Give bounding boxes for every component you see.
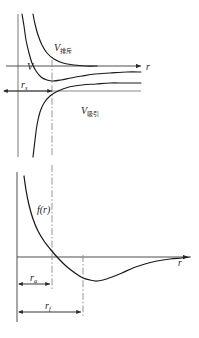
r-f-measure-label: rf <box>45 300 52 312</box>
f-of-r-curve <box>24 176 190 281</box>
figure-canvas: V排斥 V V吸引 r rs f(r) r r <box>0 0 199 338</box>
figure-root: V排斥 V V吸引 r rs f(r) r r <box>0 0 199 338</box>
r-a-measure-label: ra <box>30 272 37 284</box>
f-of-r-label: f(r) <box>37 204 51 216</box>
v-repulsive-label: V排斥 <box>54 42 72 55</box>
potential-r-axis-label: r <box>146 62 150 72</box>
v-attractive-label: V吸引 <box>81 105 99 118</box>
v-repulsive-curve <box>33 14 97 66</box>
potential-panel: V排斥 V V吸引 r rs <box>4 14 150 157</box>
force-panel: f(r) r ra rf <box>17 165 190 322</box>
v-total-curve <box>22 14 141 81</box>
r-s-measure-label: rs <box>21 79 28 91</box>
v-attractive-curve <box>33 83 141 157</box>
force-r-axis-label: r <box>178 258 182 268</box>
